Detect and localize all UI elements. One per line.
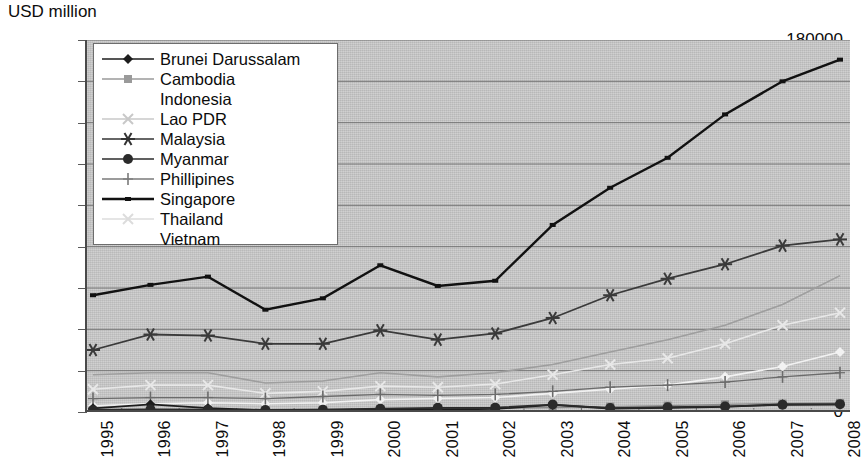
legend-marker-circle-icon	[100, 150, 156, 168]
series-malaysia	[87, 233, 847, 356]
x-axis-tick-label: 2007	[789, 420, 807, 458]
x-axis-tick-label: 2005	[674, 420, 692, 458]
legend-marker-xfaint-icon	[100, 210, 156, 228]
legend: Brunei DarussalamCambodiaIndonesiaLao PD…	[93, 43, 338, 245]
series-vietnam	[88, 347, 845, 411]
legend-item-label: Thailand	[160, 210, 223, 228]
x-axis-tick-label: 2003	[559, 420, 577, 458]
legend-marker-tick-icon	[100, 190, 156, 208]
legend-item: Thailand	[100, 209, 331, 229]
legend-marker-x-icon	[100, 110, 156, 128]
x-axis-tick-label: 1996	[156, 420, 174, 458]
x-axis-tick-label: 2000	[386, 420, 404, 458]
legend-item-label: Myanmar	[160, 150, 229, 168]
x-axis-tick-label: 2004	[616, 420, 634, 458]
legend-item: Myanmar	[100, 149, 331, 169]
legend-marker-plus-icon	[100, 170, 156, 188]
legend-item: Brunei Darussalam	[100, 49, 331, 69]
legend-marker-asterisk-icon	[100, 130, 156, 148]
bottom-border	[0, 466, 853, 476]
x-axis-tick-label: 1999	[329, 420, 347, 458]
legend-marker-diamond-icon	[100, 50, 156, 68]
legend-item: Indonesia	[100, 89, 331, 109]
legend-marker-none-icon	[100, 90, 156, 108]
legend-item-label: Phillipines	[160, 170, 234, 188]
legend-item: Phillipines	[100, 169, 331, 189]
x-axis-tick-label: 2006	[731, 420, 749, 458]
legend-item: Singapore	[100, 189, 331, 209]
y-axis-title: USD million	[8, 2, 97, 22]
legend-item: Lao PDR	[100, 109, 331, 129]
series-myanmar	[88, 399, 845, 412]
legend-item-label: Brunei Darussalam	[160, 50, 300, 68]
legend-marker-none-icon	[100, 230, 156, 248]
x-axis-tick-label: 1997	[214, 420, 232, 458]
legend-item-label: Indonesia	[160, 90, 232, 108]
legend-marker-square-icon	[100, 70, 156, 88]
x-axis-tick-label: 1998	[271, 420, 289, 458]
x-axis-tick-label: 1995	[99, 420, 117, 458]
legend-item-label: Vietnam	[160, 230, 220, 248]
y-axis-tick-mark	[78, 412, 87, 413]
top-border	[0, 0, 853, 3]
series-thailand	[88, 308, 845, 399]
x-axis-tick-label: 2001	[444, 420, 462, 458]
legend-item-label: Singapore	[160, 190, 235, 208]
legend-item-label: Malaysia	[160, 130, 225, 148]
x-axis-tick-label: 2008	[846, 420, 864, 458]
legend-item: Malaysia	[100, 129, 331, 149]
legend-item: Vietnam	[100, 229, 331, 249]
legend-item: Cambodia	[100, 69, 331, 89]
x-axis-tick-label: 2002	[501, 420, 519, 458]
legend-item-label: Cambodia	[160, 70, 235, 88]
legend-item-label: Lao PDR	[160, 110, 227, 128]
